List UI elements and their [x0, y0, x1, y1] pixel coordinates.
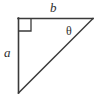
- triangle-hypotenuse-line: [19, 19, 94, 94]
- right-triangle-figure: b a θ: [0, 0, 100, 99]
- right-angle-marker-icon: [19, 19, 32, 32]
- side-label-b: b: [50, 1, 57, 14]
- side-label-a: a: [4, 46, 11, 59]
- angle-label-theta: θ: [66, 25, 72, 37]
